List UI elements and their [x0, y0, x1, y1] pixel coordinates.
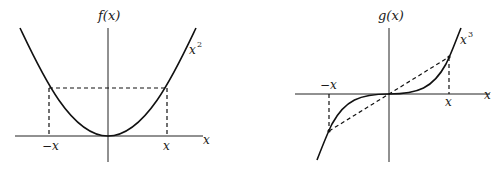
tick-label-pos: x [163, 139, 170, 153]
curve-label: x [189, 43, 196, 57]
curve-label: x [460, 33, 467, 47]
point-pos [447, 55, 450, 58]
curve-label-exponent: 3 [468, 30, 473, 39]
tick-label-pos: x [445, 95, 452, 109]
tick-label-neg: −x [42, 139, 59, 153]
x-axis-label: x [203, 133, 210, 147]
tick-label-neg: −x [320, 78, 337, 92]
odd-function-plot: g(x) x 3 −x x x [295, 8, 491, 162]
curve-label-exponent: 2 [197, 40, 202, 49]
x-axis-label: x [484, 88, 491, 102]
diagram-canvas: f(x) x 2 −x x x g(x) x 3 −x x x [0, 0, 502, 170]
y-axis-label: g(x) [378, 8, 404, 23]
point-neg [327, 129, 330, 132]
even-function-plot: f(x) x 2 −x x x [15, 8, 210, 162]
y-axis-label: f(x) [97, 8, 120, 23]
